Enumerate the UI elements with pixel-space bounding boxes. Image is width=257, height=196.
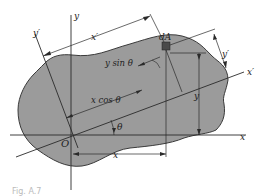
dA-label: dA: [159, 32, 172, 42]
area-element-dA: [162, 42, 170, 50]
origin-label: O: [61, 138, 69, 149]
theta-label: θ: [117, 122, 123, 132]
figure-caption: Fig. A.7: [12, 187, 41, 196]
y-prime-axis-label: y′: [32, 28, 40, 38]
y-sin-theta-label: y sin θ: [104, 58, 133, 68]
y-axis-label: y: [73, 11, 80, 21]
arrowhead-icon: [213, 34, 217, 40]
x-prime-dim-label: x′: [91, 32, 98, 42]
y-prime-dim-label: y′: [221, 49, 229, 59]
x-axis-label: x: [240, 132, 245, 142]
x-dim-label: x: [113, 150, 118, 160]
arrowhead-icon: [43, 51, 51, 56]
y-dim-label: y: [193, 91, 200, 101]
arrowhead-icon: [143, 16, 150, 21]
x-cos-theta-label: x cos θ: [91, 95, 121, 105]
x-prime-axis-label: x′: [247, 67, 254, 77]
rotated-axes-diagram: y y′ x′ dA y sin θ y′ x′ x cos θ y θ O x…: [0, 0, 257, 196]
arrowhead-icon: [160, 152, 166, 156]
